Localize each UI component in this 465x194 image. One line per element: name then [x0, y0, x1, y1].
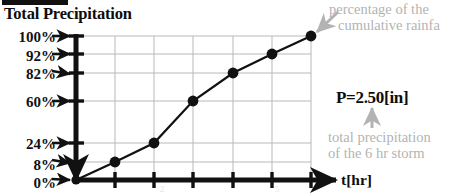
total-precipitation-value: P=2.50[in]: [336, 88, 408, 108]
data-point-0: [71, 175, 80, 184]
data-point-1: [110, 157, 121, 168]
y-label-arrows: [52, 36, 70, 180]
bottom-annotation-line1: total precipitation: [328, 129, 431, 145]
bottom-annotation: total precipitation of the 6 hr storm: [328, 129, 431, 161]
data-point-4: [228, 68, 239, 79]
top-annotation-line1: percentage of the: [329, 1, 440, 17]
data-point-3: [188, 96, 199, 107]
data-point-2: [149, 138, 160, 149]
bottom-annotation-line2: of the 6 hr storm: [328, 145, 431, 161]
x-axis-label: t[hr]: [341, 171, 372, 189]
top-annotation-line2: cumulative rainfa: [338, 17, 440, 33]
precipitation-figure: Total Precipitation 100% 92% 82% 60% 24%…: [0, 0, 465, 194]
data-point-5: [267, 49, 278, 60]
vertical-gridlines: [115, 36, 311, 180]
top-annotation: percentage of the cumulative rainfa: [329, 1, 440, 33]
data-point-6: [306, 31, 317, 42]
